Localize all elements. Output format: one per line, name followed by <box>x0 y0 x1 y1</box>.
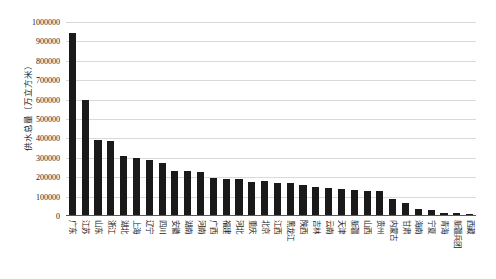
bar <box>248 182 255 216</box>
bar-slot <box>169 22 182 216</box>
x-tick-label: 吉林 <box>312 220 320 234</box>
bar-slot <box>66 22 79 216</box>
y-tick-label: 800000 <box>36 56 60 65</box>
bar <box>184 171 191 216</box>
x-tick-label: 四川 <box>158 220 166 234</box>
bar-chart: 供水总量（万立方米） 10000009000008000007000006000… <box>0 0 496 279</box>
x-label-slot: 内蒙古 <box>386 218 399 278</box>
x-label-slot: 陕西 <box>297 218 310 278</box>
bar-slot <box>79 22 92 216</box>
x-tick-label: 云南 <box>325 220 333 234</box>
bar-slot <box>117 22 130 216</box>
y-tick-label: 400000 <box>36 134 60 143</box>
x-tick-label: 新疆兵团 <box>453 220 461 248</box>
plot-area <box>66 22 476 216</box>
bar-slot <box>450 22 463 216</box>
bar <box>299 185 306 216</box>
bar-slot <box>245 22 258 216</box>
bar <box>338 189 345 216</box>
x-axis-line <box>66 215 476 216</box>
x-tick-label: 湖南 <box>184 220 192 234</box>
bar-slot <box>233 22 246 216</box>
bar-slot <box>258 22 271 216</box>
bar-slot <box>399 22 412 216</box>
x-label-slot: 新疆 <box>348 218 361 278</box>
bar <box>210 178 217 216</box>
bar-slot <box>130 22 143 216</box>
x-tick-label: 天津 <box>338 220 346 234</box>
x-tick-label: 海南 <box>415 220 423 234</box>
bar-slot <box>335 22 348 216</box>
bar-slot <box>309 22 322 216</box>
x-label-slot: 四川 <box>156 218 169 278</box>
bar <box>287 183 294 216</box>
bar <box>197 172 204 216</box>
x-tick-label: 山东 <box>94 220 102 234</box>
x-tick-label: 湖北 <box>120 220 128 234</box>
x-label-slot: 重庆 <box>245 218 258 278</box>
bar <box>389 199 396 216</box>
x-tick-label: 甘肃 <box>402 220 410 234</box>
x-label-slot: 山西 <box>361 218 374 278</box>
x-tick-label: 西藏 <box>466 220 474 234</box>
y-tick-label: 300000 <box>36 153 60 162</box>
x-tick-label: 安徽 <box>171 220 179 234</box>
x-tick-label: 青海 <box>440 220 448 234</box>
x-tick-label: 重庆 <box>248 220 256 234</box>
x-label-slot: 新疆兵团 <box>450 218 463 278</box>
y-tick-label: 0 <box>56 212 60 221</box>
bar <box>351 190 358 216</box>
bar <box>159 163 166 216</box>
x-label-slot: 江苏 <box>79 218 92 278</box>
bar-slot <box>181 22 194 216</box>
x-label-slot: 山东 <box>92 218 105 278</box>
bar-slot <box>348 22 361 216</box>
x-tick-label: 北京 <box>261 220 269 234</box>
bar <box>82 100 89 216</box>
x-label-slot: 黑龙江 <box>284 218 297 278</box>
x-tick-label: 新疆 <box>351 220 359 234</box>
x-tick-label: 宁夏 <box>427 220 435 234</box>
bar <box>376 191 383 216</box>
bar-slot <box>143 22 156 216</box>
bar <box>120 156 127 216</box>
bar <box>261 181 268 216</box>
bar-series <box>66 22 476 216</box>
bar <box>69 33 76 216</box>
bar-slot <box>361 22 374 216</box>
x-label-slot: 上海 <box>130 218 143 278</box>
x-axis-tick-labels: 广东江苏山东浙江湖北上海辽宁四川安徽湖南河南广西福建河北重庆北京江西黑龙江陕西吉… <box>66 218 476 278</box>
y-tick-label: 200000 <box>36 173 60 182</box>
x-tick-label: 河北 <box>235 220 243 234</box>
x-label-slot: 湖南 <box>181 218 194 278</box>
bar <box>107 141 114 216</box>
x-tick-label: 福建 <box>222 220 230 234</box>
x-label-slot: 甘肃 <box>399 218 412 278</box>
x-tick-label: 陕西 <box>299 220 307 234</box>
bar <box>146 160 153 216</box>
x-label-slot: 江西 <box>271 218 284 278</box>
bar-slot <box>104 22 117 216</box>
bar <box>223 179 230 216</box>
x-label-slot: 广东 <box>66 218 79 278</box>
x-label-slot: 西藏 <box>463 218 476 278</box>
x-tick-label: 浙江 <box>107 220 115 234</box>
bar-slot <box>322 22 335 216</box>
bar-slot <box>220 22 233 216</box>
x-tick-label: 辽宁 <box>146 220 154 234</box>
x-label-slot: 浙江 <box>104 218 117 278</box>
bar-slot <box>207 22 220 216</box>
x-tick-label: 江苏 <box>81 220 89 234</box>
bar <box>133 158 140 216</box>
x-tick-label: 河南 <box>197 220 205 234</box>
x-label-slot: 青海 <box>438 218 451 278</box>
bar-slot <box>463 22 476 216</box>
bar-slot <box>297 22 310 216</box>
x-tick-label: 广东 <box>69 220 77 234</box>
x-label-slot: 北京 <box>258 218 271 278</box>
x-label-slot: 河南 <box>194 218 207 278</box>
y-tick-label: 1000000 <box>32 18 60 27</box>
x-tick-label: 山西 <box>363 220 371 234</box>
x-label-slot: 辽宁 <box>143 218 156 278</box>
bar-slot <box>386 22 399 216</box>
